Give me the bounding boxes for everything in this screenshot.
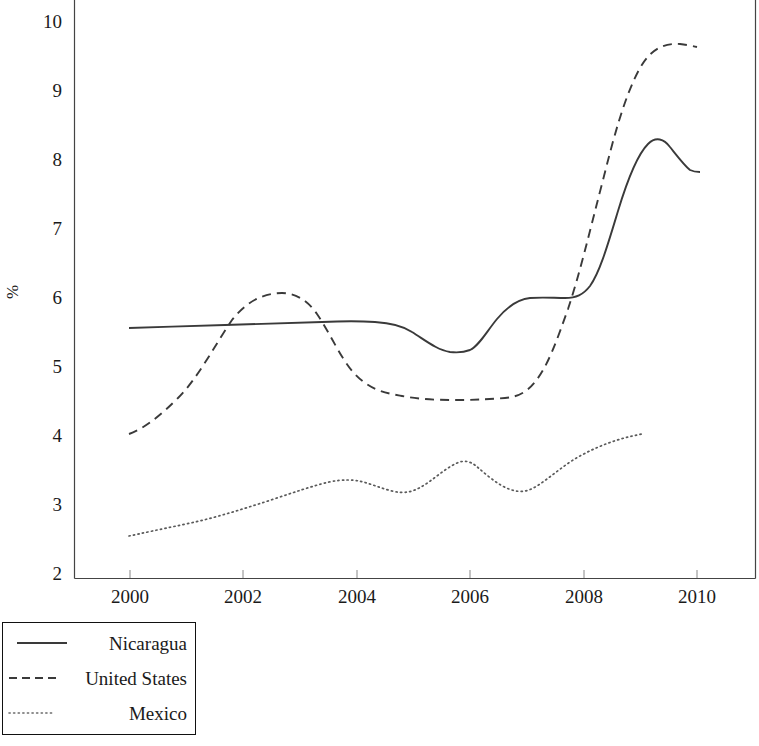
legend-item-mexico: Mexico [3,696,197,730]
axis-frame [75,0,756,579]
legend-item-nicaragua: Nicaragua [3,626,197,660]
legend-item-united-states: United States [3,661,197,695]
line-chart-figure: % 10 9 8 7 6 5 4 3 2 2000 2002 2004 2006… [0,0,759,746]
series-line-mexico [129,434,642,536]
x-tick-marks [130,570,697,578]
legend-sample-solid-line-icon [3,633,81,653]
legend-label-mexico: Mexico [81,704,197,723]
legend-label-united-states: United States [81,669,197,688]
legend-sample-dotted-line-icon [3,703,81,723]
series-line-nicaragua [129,139,700,352]
legend: Nicaragua United States Mexico [2,622,196,735]
series-line-united-states [129,44,697,434]
legend-sample-dashed-line-icon [3,668,81,688]
legend-label-nicaragua: Nicaragua [81,634,197,653]
